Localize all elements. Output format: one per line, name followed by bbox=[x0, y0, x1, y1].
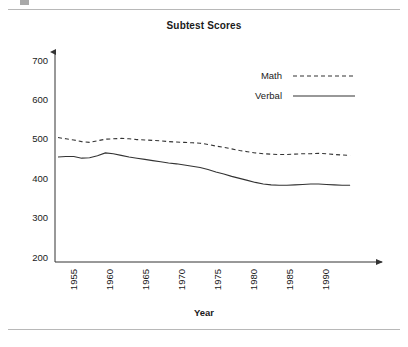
series-lines bbox=[58, 138, 350, 186]
y-tick-label: 400 bbox=[32, 173, 48, 184]
figure-page: Subtest Scores 700 600 500 400 300 200 1… bbox=[0, 0, 408, 347]
y-tick-label: 200 bbox=[32, 252, 48, 263]
series-line-verbal bbox=[58, 153, 350, 185]
y-tick-label: 700 bbox=[32, 55, 48, 66]
x-tick-label: 1960 bbox=[104, 269, 115, 290]
legend: Math Verbal bbox=[255, 70, 355, 101]
x-tick-label: 1970 bbox=[176, 269, 187, 290]
x-tick-label: 1965 bbox=[140, 269, 151, 290]
y-tick-labels: 700 600 500 400 300 200 bbox=[32, 55, 48, 263]
legend-label-math: Math bbox=[261, 70, 282, 81]
x-tick-label: 1990 bbox=[320, 269, 331, 290]
line-chart: 700 600 500 400 300 200 1955 1960 1965 1… bbox=[0, 0, 408, 347]
x-tick-label: 1975 bbox=[212, 269, 223, 290]
x-axis-title: Year bbox=[0, 307, 408, 318]
x-tick-label: 1985 bbox=[284, 269, 295, 290]
y-tick-label: 600 bbox=[32, 94, 48, 105]
x-tick-labels: 1955 1960 1965 1970 1975 1980 1985 1990 bbox=[68, 269, 331, 290]
series-line-math bbox=[58, 138, 350, 156]
x-tick-label: 1980 bbox=[248, 269, 259, 290]
legend-label-verbal: Verbal bbox=[255, 90, 282, 101]
y-tick-label: 300 bbox=[32, 212, 48, 223]
x-tick-label: 1955 bbox=[68, 269, 79, 290]
y-tick-label: 500 bbox=[32, 133, 48, 144]
